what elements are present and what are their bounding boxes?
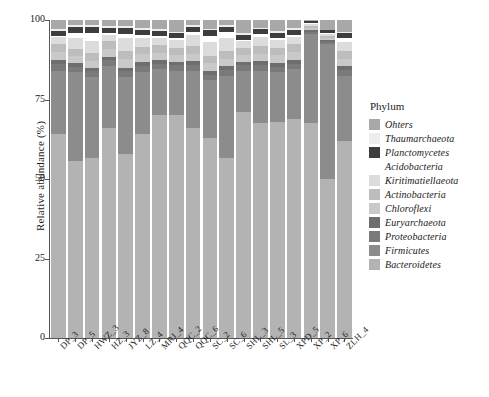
bar-column[interactable] [117, 20, 134, 338]
bar-segment [85, 77, 100, 158]
bar-segment [51, 52, 66, 60]
legend-item[interactable]: Thaumarchaeota [369, 131, 487, 145]
bar-segment [169, 115, 184, 338]
bar-segment [135, 20, 150, 28]
bar-segment [320, 20, 335, 30]
bar-segment [270, 20, 285, 31]
bar-segment [118, 59, 133, 67]
bar-segment [236, 71, 251, 112]
bar-segment [118, 154, 133, 338]
bar-column[interactable] [235, 20, 252, 338]
bar-segment [186, 46, 201, 54]
bar-segment [219, 51, 234, 59]
bar-segment [169, 71, 184, 116]
bar-segment [236, 55, 251, 62]
bar-column[interactable] [168, 20, 185, 338]
bar-segment [219, 158, 234, 338]
bar-segment [51, 20, 66, 29]
bar-stack [236, 20, 251, 338]
bar-column[interactable] [151, 20, 168, 338]
legend-item[interactable]: Proteobacteria [369, 229, 487, 243]
x-label-cell: XPD_5 [286, 344, 303, 394]
legend-item[interactable]: Kiritimatiellaeota [369, 173, 487, 187]
bar-stack [337, 20, 352, 338]
bar-column[interactable] [269, 20, 286, 338]
bar-stack [85, 20, 100, 338]
bar-segment [287, 69, 302, 118]
bar-segment [85, 33, 100, 41]
bar-segment [270, 122, 285, 338]
legend-item[interactable]: Firmicutes [369, 243, 487, 257]
legend-item-label: Planctomycetes [385, 147, 449, 158]
bar-column[interactable] [134, 20, 151, 338]
bar-segment [152, 38, 167, 46]
bar-column[interactable] [302, 20, 319, 338]
legend-item-label: Ohters [385, 119, 413, 130]
legend-item[interactable]: Chloroflexi [369, 201, 487, 215]
x-label-cell: QQC_2 [168, 344, 185, 394]
bar-column[interactable] [252, 20, 269, 338]
bar-segment [304, 123, 319, 338]
legend-item[interactable]: Planctomycetes [369, 145, 487, 159]
bar-column[interactable] [185, 20, 202, 338]
legend-item-label: Bacteroidetes [385, 259, 441, 270]
bar-segment [68, 56, 83, 63]
bar-segment [51, 134, 66, 338]
bar-segment [118, 51, 133, 59]
bar-segment [135, 47, 150, 55]
bar-segment [68, 49, 83, 56]
bar-column[interactable] [286, 20, 303, 338]
bar-column[interactable] [100, 20, 117, 338]
bar-segment [169, 20, 184, 32]
bar-column[interactable] [319, 20, 336, 338]
bar-segment [135, 54, 150, 62]
bar-segment [118, 38, 133, 51]
bar-segment [337, 76, 352, 141]
bar-stack [169, 20, 184, 338]
legend: Phylum OhtersThaumarchaeotaPlanctomycete… [369, 100, 487, 271]
bar-segment [152, 53, 167, 60]
x-label-cell: SC_2 [201, 344, 218, 394]
legend-item[interactable]: Acidobacteria [369, 159, 487, 173]
bar-segment [253, 37, 268, 46]
legend-color-swatch [369, 259, 380, 270]
bar-segment [186, 71, 201, 128]
bar-column[interactable] [50, 20, 67, 338]
bar-segment [253, 123, 268, 338]
bar-column[interactable] [67, 20, 84, 338]
bar-segment [253, 54, 268, 61]
bar-stack [270, 20, 285, 338]
legend-item[interactable]: Actinobacteria [369, 187, 487, 201]
x-label-cell: DP_5 [67, 344, 84, 394]
bar-segment [203, 20, 218, 29]
bar-segment [102, 41, 117, 49]
bar-segment [186, 54, 201, 61]
legend-item[interactable]: Euryarchaeota [369, 215, 487, 229]
bar-segment [219, 38, 234, 51]
bar-segment [337, 59, 352, 66]
legend-item-label: Firmicutes [385, 245, 429, 256]
x-label-cell: SHL_5 [252, 344, 269, 394]
bar-segment [219, 59, 234, 66]
legend-item[interactable]: Bacteroidetes [369, 257, 487, 271]
bar-column[interactable] [201, 20, 218, 338]
y-tick-label: 100 [19, 14, 45, 24]
bar-column[interactable] [336, 20, 353, 338]
legend-color-swatch [369, 133, 380, 144]
legend-color-swatch [369, 119, 380, 130]
x-axis-labels: DP_3DP_5HWZ_3HZ_3JYZ_8LZ_4MRJ_4QQC_2QQC_… [50, 344, 353, 394]
bar-column[interactable] [84, 20, 101, 338]
bar-segment [219, 76, 234, 159]
x-label-cell: ZLH_4 [336, 344, 353, 394]
x-label-cell: SL_3 [269, 344, 286, 394]
bar-segment [152, 45, 167, 52]
bar-column[interactable] [218, 20, 235, 338]
legend-item-label: Kiritimatiellaeota [385, 175, 458, 186]
bar-segment [102, 49, 117, 57]
bar-segment [85, 41, 100, 54]
legend-item-label: Chloroflexi [385, 203, 431, 214]
legend-color-swatch [369, 231, 380, 242]
x-label-cell: LZ_4 [134, 344, 151, 394]
x-label-cell: JYZ_8 [117, 344, 134, 394]
legend-item[interactable]: Ohters [369, 117, 487, 131]
